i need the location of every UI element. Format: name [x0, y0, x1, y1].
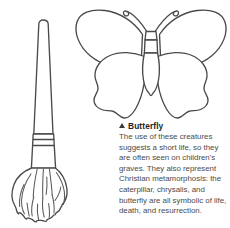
caption-title: Butterfly: [128, 121, 163, 131]
caption-heading: Butterfly: [119, 121, 228, 131]
butterfly-abdomen: [143, 53, 160, 96]
caption-block: Butterfly The use of these creatures sug…: [119, 121, 228, 217]
butterfly-illustration: [72, 4, 230, 126]
butterfly-head: [145, 32, 157, 41]
triangle-up-icon: [119, 123, 125, 128]
butterfly-thorax: [144, 40, 157, 53]
butterfly-lower-wing-left: [94, 53, 145, 118]
brush-handle: [34, 20, 53, 134]
butterfly-lower-wing-right: [157, 53, 208, 118]
page-canvas: Butterfly The use of these creatures sug…: [0, 0, 230, 228]
caption-body-text: The use of these creatures suggests a sh…: [119, 132, 228, 217]
